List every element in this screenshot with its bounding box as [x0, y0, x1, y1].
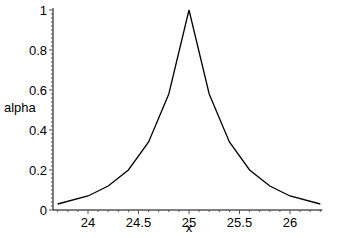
y-axis-label: alpha: [4, 100, 37, 115]
y-tick-label: 0.8: [29, 43, 47, 58]
x-tick-label: 25.5: [227, 215, 252, 230]
x-tick-label: 24.5: [126, 215, 151, 230]
y-tick-label: 0.4: [29, 123, 47, 138]
y-tick-label: 0.2: [29, 163, 47, 178]
x-tick-label: 26: [283, 215, 297, 230]
ticks: [49, 10, 320, 214]
y-tick-label: 1: [40, 3, 47, 18]
chart: 00.20.40.60.812424.52525.526 x alpha: [0, 0, 338, 238]
axes: [53, 8, 322, 210]
y-tick-label: 0: [40, 203, 47, 218]
x-axis-label: x: [186, 220, 193, 235]
tick-labels: 00.20.40.60.812424.52525.526: [29, 3, 297, 230]
data-line: [58, 10, 321, 204]
x-tick-label: 24: [81, 215, 95, 230]
y-tick-label: 0.6: [29, 83, 47, 98]
